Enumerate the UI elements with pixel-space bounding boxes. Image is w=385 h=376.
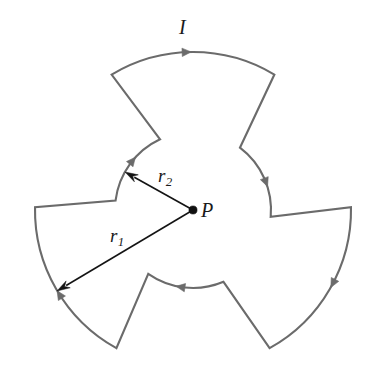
inner-radius-symbol: r: [158, 165, 165, 186]
point-p-label: P: [201, 200, 213, 220]
current-loop-wire: [35, 52, 351, 348]
outer-radius-subscript: 1: [118, 234, 124, 249]
outer-radius-label: r1: [110, 226, 124, 249]
dimension-arrowhead-r2: [125, 172, 138, 182]
current-arrow-group: [57, 48, 339, 300]
current-label: I: [179, 17, 186, 37]
inner-radius-subscript: 2: [166, 174, 172, 189]
center-point-group: [189, 206, 197, 214]
current-loop-diagram: [0, 0, 385, 376]
dimension-line-group: [57, 172, 193, 291]
wire-path-group: [35, 52, 351, 348]
outer-radius-symbol: r: [110, 225, 117, 246]
dimension-arrowhead-r1: [57, 281, 70, 291]
dimension-line-r1: [66, 210, 193, 286]
current-direction-arrow-4: [176, 284, 186, 292]
current-direction-arrow-1: [182, 48, 191, 56]
inner-radius-label: r2: [158, 166, 172, 189]
physics-figure: I P r1 r2: [0, 0, 385, 376]
current-direction-arrow-2: [260, 177, 268, 187]
point-p-marker: [189, 206, 197, 214]
